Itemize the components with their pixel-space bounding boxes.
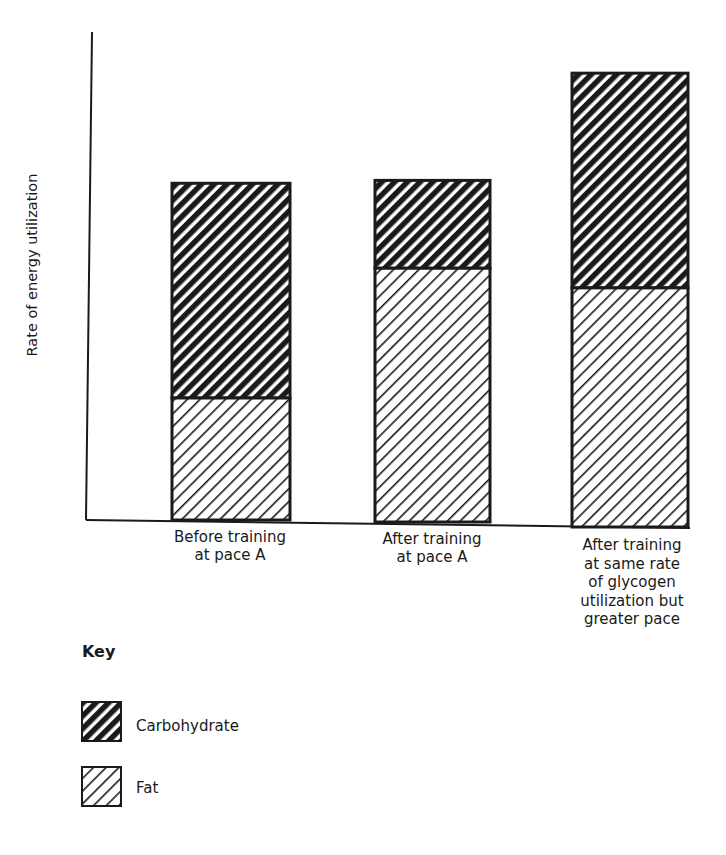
category-label-after-training-greater-pace: After training at same rate of glycogen … <box>552 536 712 629</box>
y-axis-label: Rate of energy utilization <box>24 174 40 357</box>
legend-swatch-carbohydrate-icon <box>81 701 122 742</box>
legend-label-carbohydrate: Carbohydrate <box>136 717 239 735</box>
bar-segment-fat <box>572 288 688 527</box>
legend-title: Key <box>82 642 115 661</box>
bar-segment-fat <box>172 398 290 520</box>
bar-segment-carbohydrate <box>375 180 490 268</box>
bar-segment-carbohydrate <box>172 183 290 398</box>
legend-label-fat: Fat <box>136 779 158 797</box>
bars-group <box>172 73 688 527</box>
bar-segment-carbohydrate <box>572 73 688 288</box>
legend-swatch-fat-icon <box>81 766 122 807</box>
bar-segment-fat <box>375 268 490 522</box>
category-label-after-training: After training at pace A <box>352 530 512 566</box>
category-label-before-training: Before training at pace A <box>150 528 310 564</box>
y-axis <box>86 32 92 520</box>
